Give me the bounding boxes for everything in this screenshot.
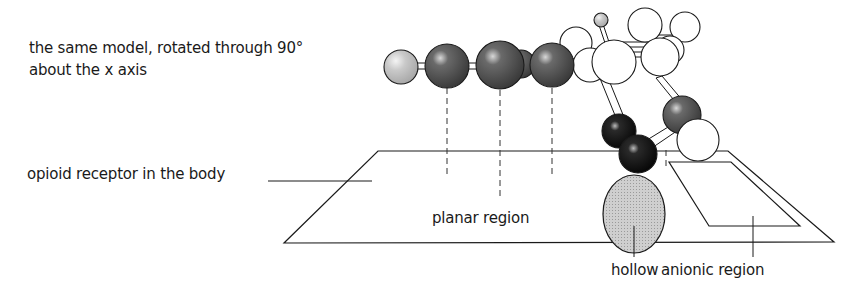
atom-white [592,40,636,84]
atom-white [641,38,679,76]
atom-dark [476,41,524,89]
receptor-plate [268,151,834,243]
figure-caption: the same model, rotated through 90° abou… [29,37,303,81]
atom-white [677,119,719,161]
molecule-receptor-diagram: the same model, rotated through 90° abou… [0,0,860,295]
hollow-label: hollow [611,259,658,281]
caption-line-1: the same model, rotated through 90° [29,37,303,59]
atom-dark [425,44,469,88]
atom-small-grey [594,13,608,27]
planar-region-label: planar region [432,207,529,229]
caption-line-2: about the x axis [29,59,303,81]
anionic-region-label: anionic region [661,259,764,281]
plate-outline [284,151,834,243]
atom-dark [530,43,574,87]
receptor-label: opioid receptor in the body [27,163,225,185]
atom-light-grey [384,50,418,84]
atom-black [619,135,657,173]
atom-white [628,8,662,42]
